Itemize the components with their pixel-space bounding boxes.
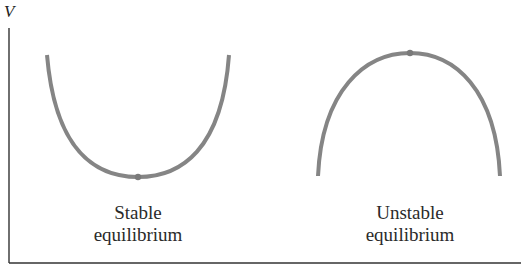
stable-equilibrium-label: Stable equilibrium bbox=[78, 202, 198, 246]
y-axis-label: V bbox=[4, 2, 14, 22]
unstable-potential-curve bbox=[318, 53, 500, 176]
stable-label-line1: Stable bbox=[78, 202, 198, 224]
unstable-equilibrium-label: Unstable equilibrium bbox=[350, 202, 470, 246]
stable-potential-curve bbox=[47, 55, 229, 177]
unstable-equilibrium-point bbox=[407, 50, 413, 56]
stable-equilibrium-point bbox=[135, 174, 141, 180]
stable-label-line2: equilibrium bbox=[78, 224, 198, 246]
unstable-label-line1: Unstable bbox=[350, 202, 470, 224]
unstable-label-line2: equilibrium bbox=[350, 224, 470, 246]
